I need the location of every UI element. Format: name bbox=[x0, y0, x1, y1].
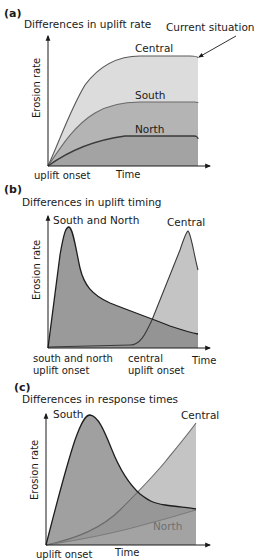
current-situation-arrow bbox=[199, 36, 236, 57]
panel-b-y-label: Erosion rate bbox=[31, 240, 42, 300]
panel-c-title: Differences in response times bbox=[22, 393, 178, 405]
south-label: South bbox=[53, 408, 84, 420]
panel-a-x-start-label: uplift onset bbox=[34, 170, 91, 181]
panel-c-x-start-label: uplift onset bbox=[36, 549, 93, 560]
panel-a-y-label: Erosion rate bbox=[31, 58, 42, 118]
panel-a-title: Differences in uplift rate bbox=[24, 18, 151, 30]
panel-c-y-label: Erosion rate bbox=[29, 440, 40, 500]
central-label: Central bbox=[181, 409, 219, 421]
current-situation-annotation: Current situation bbox=[166, 21, 254, 33]
panel-b: (b) Differences in uplift timing South a… bbox=[4, 183, 216, 376]
central-label: Central bbox=[135, 42, 173, 54]
panel-a: (a) Differences in uplift rate Current s… bbox=[4, 7, 254, 181]
central-label: Central bbox=[167, 216, 205, 228]
panel-b-title: Differences in uplift timing bbox=[22, 196, 161, 208]
panel-b-x-mid-label-2: uplift onset bbox=[128, 365, 185, 376]
panel-c-x-label: Time bbox=[114, 547, 139, 558]
south-label: South bbox=[135, 89, 166, 101]
north-label: North bbox=[153, 520, 182, 532]
panel-b-x-mid-label-1: central bbox=[128, 353, 163, 364]
panel-a-x-label: Time bbox=[115, 169, 140, 180]
panel-b-letter: (b) bbox=[4, 183, 22, 196]
south-north-label: South and North bbox=[53, 214, 139, 226]
north-label: North bbox=[135, 123, 164, 135]
panel-b-x-start-label-2: uplift onset bbox=[33, 365, 90, 376]
panel-b-x-start-label-1: south and north bbox=[33, 353, 113, 364]
panel-c: (c) Differences in response times South … bbox=[14, 381, 219, 560]
panel-a-letter: (a) bbox=[4, 7, 21, 20]
panel-b-x-label: Time bbox=[191, 355, 216, 366]
figure: (a) Differences in uplift rate Current s… bbox=[0, 0, 264, 560]
